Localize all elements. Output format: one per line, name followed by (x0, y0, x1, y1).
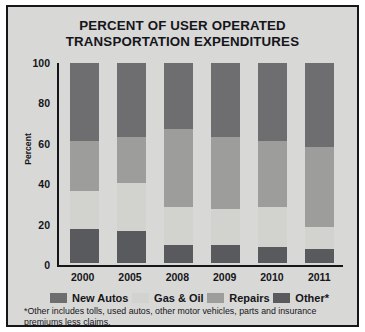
segment-gas-oil (164, 207, 193, 245)
segment-repairs (211, 137, 240, 209)
bar-2010[interactable] (258, 63, 287, 263)
x-tick-2008: 2008 (163, 271, 192, 287)
segment-repairs (164, 129, 193, 207)
chart-footnote: *Other includes tolls, used autos, other… (24, 306, 354, 327)
x-tick-2000: 2000 (68, 271, 97, 287)
segment-gas-oil (305, 227, 334, 249)
legend-swatch-icon-repairs (207, 293, 224, 303)
legend-item-other[interactable]: Other* (273, 292, 329, 304)
segment-other (258, 247, 287, 263)
segment-gas-oil (117, 183, 146, 231)
segment-other (70, 229, 99, 263)
plot-inner (57, 63, 343, 267)
legend-swatch-icon-new-autos (50, 293, 67, 303)
y-tick-100: 100 (32, 57, 50, 69)
legend-label-other: Other* (295, 292, 329, 304)
chart-title-line-2: TRANSPORTATION EXPENDITURES (8, 34, 357, 50)
segment-repairs (117, 137, 146, 183)
legend-item-repairs[interactable]: Repairs (207, 292, 269, 304)
segment-other (211, 245, 240, 263)
legend-item-new-autos[interactable]: New Autos (50, 292, 128, 304)
legend-swatch-icon-other (273, 293, 290, 303)
y-tick-80: 80 (38, 97, 50, 109)
legend-label-new-autos: New Autos (72, 292, 128, 304)
legend-label-gas-oil: Gas & Oil (154, 292, 204, 304)
x-tick-2005: 2005 (115, 271, 144, 287)
plot-area (57, 63, 343, 267)
chart-title: PERCENT OF USER OPERATED TRANSPORTATION … (8, 18, 357, 49)
segment-other (117, 231, 146, 263)
segment-new-autos (164, 63, 193, 129)
x-tick-2011: 2011 (305, 271, 334, 287)
segment-new-autos (117, 63, 146, 137)
segment-new-autos (258, 63, 287, 141)
bar-2005[interactable] (117, 63, 146, 263)
y-tick-20: 20 (38, 219, 50, 231)
chart-legend: New Autos Gas & Oil Repairs Other* (22, 290, 347, 305)
bar-2011[interactable] (305, 63, 334, 263)
y-tick-0: 0 (44, 259, 50, 271)
bar-group (61, 63, 343, 263)
x-axis-ticks: 2000 2005 2008 2009 2010 2011 (59, 271, 343, 287)
segment-new-autos (70, 63, 99, 141)
segment-gas-oil (211, 209, 240, 245)
bar-2009[interactable] (211, 63, 240, 263)
y-tick-40: 40 (38, 178, 50, 190)
chart-figure: PERCENT OF USER OPERATED TRANSPORTATION … (6, 5, 359, 327)
segment-other (164, 245, 193, 263)
segment-gas-oil (258, 207, 287, 247)
y-tick-60: 60 (38, 138, 50, 150)
segment-new-autos (305, 63, 334, 147)
x-tick-2009: 2009 (210, 271, 239, 287)
segment-new-autos (211, 63, 240, 137)
legend-label-repairs: Repairs (229, 292, 269, 304)
x-tick-2010: 2010 (257, 271, 286, 287)
y-axis-ticks: 0 20 40 60 80 100 (15, 63, 53, 265)
bar-2008[interactable] (164, 63, 193, 263)
legend-swatch-icon-gas-oil (132, 293, 149, 303)
segment-repairs (70, 141, 99, 191)
segment-repairs (258, 141, 287, 207)
segment-other (305, 249, 334, 263)
segment-repairs (305, 147, 334, 227)
legend-item-gas-oil[interactable]: Gas & Oil (132, 292, 204, 304)
chart-title-line-1: PERCENT OF USER OPERATED (8, 18, 357, 34)
segment-gas-oil (70, 191, 99, 229)
bar-2000[interactable] (70, 63, 99, 263)
